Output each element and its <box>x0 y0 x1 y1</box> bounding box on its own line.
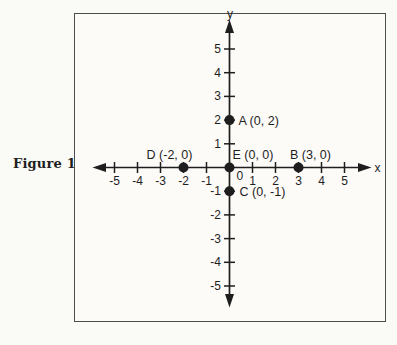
point-label: E (0, 0) <box>233 148 274 162</box>
point-label: A (0, 2) <box>239 114 279 128</box>
point-dot <box>179 163 189 173</box>
y-tick-label: 3 <box>214 89 221 103</box>
point-label: B (3, 0) <box>290 148 331 162</box>
scanned-figure-page: Figure 17 -5-4-3-2-112345-5-4-3-2-112345… <box>0 0 397 345</box>
x-tick-label: -2 <box>178 174 189 188</box>
x-axis-label: x <box>375 161 381 175</box>
x-axis-right-arrow-icon <box>358 163 372 172</box>
coordinate-plane: -5-4-3-2-112345-5-4-3-2-1123450xyA (0, 2… <box>75 14 385 321</box>
y-tick-label: -4 <box>210 255 221 269</box>
point-dot <box>294 163 304 173</box>
x-tick-label: -4 <box>132 174 143 188</box>
y-tick-label: 2 <box>214 113 221 127</box>
y-axis-label: y <box>227 7 233 21</box>
y-tick-label: -5 <box>210 279 221 293</box>
point-label: D (-2, 0) <box>147 148 193 162</box>
x-tick-label: 3 <box>295 174 302 188</box>
y-tick-label: 1 <box>214 137 221 151</box>
y-axis-up-arrow-icon <box>225 20 234 34</box>
x-tick-label: -5 <box>109 174 120 188</box>
y-tick-label: -3 <box>210 232 221 246</box>
y-tick-label: -1 <box>210 184 221 198</box>
x-tick-label: 5 <box>341 174 348 188</box>
plot-frame: -5-4-3-2-112345-5-4-3-2-1123450xyA (0, 2… <box>74 13 386 322</box>
point-label: C (0, -1) <box>240 185 286 199</box>
point-dot <box>225 163 235 173</box>
y-tick-label: 5 <box>214 42 221 56</box>
x-tick-label: 4 <box>318 174 325 188</box>
point-dot <box>225 186 235 196</box>
x-tick-label: -3 <box>155 174 166 188</box>
y-axis-down-arrow-icon <box>225 294 234 308</box>
point-dot <box>225 115 235 125</box>
x-axis-left-arrow-icon <box>93 163 107 172</box>
origin-label: 0 <box>237 169 244 183</box>
y-tick-label: 4 <box>214 66 221 80</box>
y-tick-label: -2 <box>210 208 221 222</box>
